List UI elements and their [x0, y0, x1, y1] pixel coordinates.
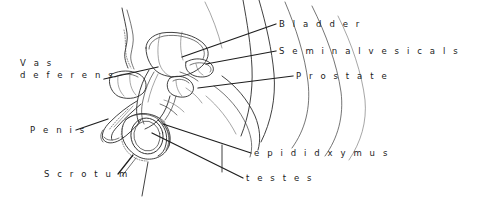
bladder-shape [146, 32, 208, 77]
anatomy-figure: V a s d e f e r e n s P e n i s S c r o … [0, 0, 478, 202]
prostate-shape [167, 76, 193, 97]
label-testes: t e s t e s [246, 172, 314, 184]
penis-shape [101, 101, 141, 143]
label-epididxymus: e p i d i d x y m u s [254, 147, 390, 159]
leader-seminal-vesicals [206, 51, 276, 64]
leader-bladder [182, 24, 276, 57]
leader-prostate [198, 76, 293, 88]
leader-epididxymus [163, 124, 251, 153]
leader-testes [152, 133, 243, 178]
label-penis: P e n i s [30, 124, 87, 136]
label-bladder: B l a d d e r [279, 18, 362, 30]
sacrum-spine-line [122, 8, 134, 69]
label-prostate: P r o s t a t e [296, 70, 389, 82]
label-vas-deferens-line1: V a s [20, 57, 115, 69]
vas-deferens-duct [137, 70, 176, 129]
label-seminal-vesicals: S e m i n a l v e s i c a l s [279, 45, 460, 57]
label-vas-deferens: V a s d e f e r e n s [20, 57, 115, 81]
perineum-detail [160, 88, 202, 115]
label-scrotum: S c r o t u m [44, 168, 130, 180]
label-vas-deferens-line2: d e f e r e n s [20, 69, 115, 81]
scrotum-tick [142, 162, 148, 196]
